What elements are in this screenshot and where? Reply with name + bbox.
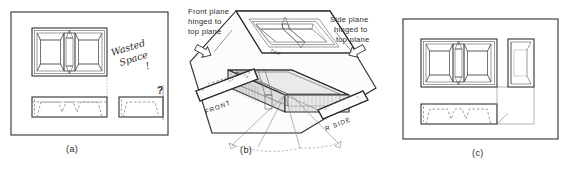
panel-c-text: (c) (0, 0, 571, 170)
panel-c-caption: (c) (472, 148, 484, 158)
figure-root: Wasted Space ! ? (a) (0, 0, 571, 170)
